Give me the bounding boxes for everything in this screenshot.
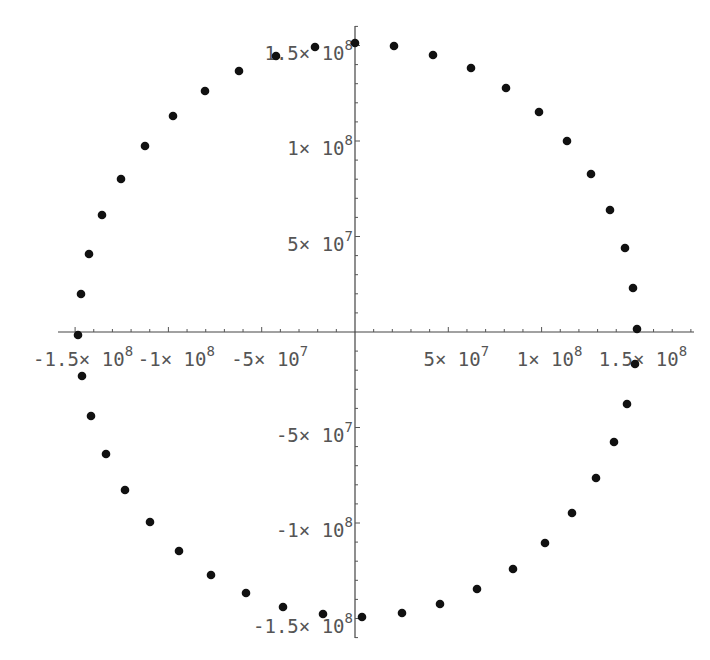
x-tick-label: 5× 107 xyxy=(423,343,489,370)
data-point xyxy=(87,412,96,421)
data-point xyxy=(77,290,86,299)
data-point xyxy=(169,112,178,121)
data-point xyxy=(631,360,640,369)
scatter-plot: -1.5× 108-1× 108-5× 1075× 1071× 1081.5× … xyxy=(0,0,710,660)
y-tick-label: 5× 107 xyxy=(287,228,353,255)
data-point xyxy=(121,486,130,495)
data-point xyxy=(587,170,596,179)
data-point xyxy=(623,400,632,409)
data-point xyxy=(358,613,367,622)
data-point xyxy=(272,52,281,61)
data-point xyxy=(535,108,544,117)
axes xyxy=(58,26,694,638)
data-point xyxy=(78,372,87,381)
data-point xyxy=(146,518,155,527)
data-point xyxy=(175,547,184,556)
data-point xyxy=(429,51,438,60)
y-tick-label: -1.5× 108 xyxy=(253,610,353,637)
x-tick-label: -1× 108 xyxy=(138,343,215,370)
data-point xyxy=(502,84,511,93)
data-point xyxy=(311,43,320,52)
data-point xyxy=(610,438,619,447)
y-tick-label: 1× 108 xyxy=(287,132,353,159)
data-point xyxy=(98,211,107,220)
data-point xyxy=(279,603,288,612)
data-point xyxy=(473,585,482,594)
x-tick-label: -1.5× 108 xyxy=(33,343,133,370)
data-point xyxy=(398,609,407,618)
data-points xyxy=(74,39,642,622)
data-point xyxy=(568,509,577,518)
data-point xyxy=(592,474,601,483)
data-point xyxy=(242,589,251,598)
data-point xyxy=(509,565,518,574)
data-point xyxy=(621,244,630,253)
data-point xyxy=(436,600,445,609)
data-point xyxy=(141,142,150,151)
y-tick-label: -1× 108 xyxy=(276,514,353,541)
data-point xyxy=(319,610,328,619)
data-point xyxy=(207,571,216,580)
data-point xyxy=(629,284,638,293)
x-tick-label: 1× 108 xyxy=(517,343,583,370)
data-point xyxy=(74,331,83,340)
data-point xyxy=(235,67,244,76)
data-point xyxy=(117,175,126,184)
data-point xyxy=(606,206,615,215)
data-point xyxy=(390,42,399,51)
data-point xyxy=(85,250,94,259)
data-point xyxy=(102,450,111,459)
data-point xyxy=(541,539,550,548)
y-tick-label: -5× 107 xyxy=(276,419,353,446)
data-point xyxy=(467,64,476,73)
data-point xyxy=(201,87,210,96)
data-point xyxy=(563,137,572,146)
data-point xyxy=(633,325,642,334)
x-tick-label: 1.5× 108 xyxy=(599,343,688,370)
x-tick-label: -5× 107 xyxy=(231,343,308,370)
data-point xyxy=(351,39,360,48)
tick-labels: -1.5× 108-1× 108-5× 1075× 1071× 1081.5× … xyxy=(33,37,687,637)
